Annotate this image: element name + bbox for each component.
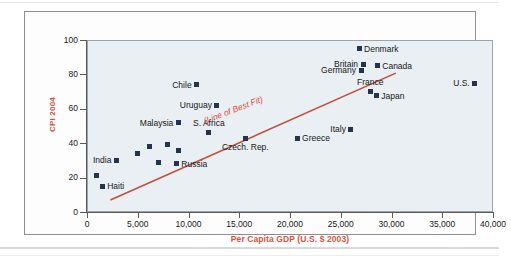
x-tick-label: 25,000 — [313, 219, 369, 229]
data-point — [472, 81, 477, 86]
x-tick-mark — [442, 212, 443, 218]
data-point — [176, 120, 181, 125]
x-tick-mark — [392, 212, 393, 218]
data-point — [243, 136, 248, 141]
data-point — [94, 173, 99, 178]
data-point — [214, 103, 219, 108]
x-tick-label: 15,000 — [211, 219, 267, 229]
x-axis-title: Per Capita GDP (U.S. $ 2003) — [87, 234, 493, 244]
x-tick-label: 5,000 — [110, 219, 166, 229]
data-point-label: India — [93, 156, 111, 165]
data-point — [135, 151, 140, 156]
x-tick-label: 10,000 — [161, 219, 217, 229]
data-point — [174, 161, 179, 166]
x-tick-label: 20,000 — [262, 219, 318, 229]
data-point — [206, 130, 211, 135]
y-axis-line — [86, 40, 87, 213]
data-point-label: Russia — [181, 159, 207, 168]
y-tick-mark — [80, 212, 87, 213]
x-tick-mark — [189, 212, 190, 218]
data-point-label: Germany — [321, 66, 356, 75]
y-tick-label: 100 — [44, 36, 78, 45]
data-point-label: Denmark — [364, 44, 398, 53]
data-point-label: Malaysia — [140, 118, 174, 127]
data-point-label: Chile — [172, 80, 191, 89]
y-tick-mark — [80, 109, 87, 110]
data-point — [375, 63, 380, 68]
data-point — [361, 62, 366, 67]
data-point — [359, 68, 364, 73]
y-tick-mark — [80, 40, 87, 41]
data-point — [147, 144, 152, 149]
x-tick-label: 0 — [59, 219, 115, 229]
x-tick-mark — [138, 212, 139, 218]
y-tick-mark — [80, 143, 87, 144]
data-point-label: Haiti — [107, 182, 124, 191]
data-point-label: Uruguay — [180, 101, 212, 110]
scan-artifact-bottom — [0, 247, 499, 249]
y-tick-mark — [80, 74, 87, 75]
data-point-label: Czech. Rep. — [222, 143, 269, 152]
data-point — [357, 46, 362, 51]
figure-frame: 020406080100 05,00010,00015,00020,00025,… — [24, 11, 476, 235]
data-point — [348, 127, 353, 132]
data-point — [165, 142, 170, 147]
data-point-label: S. Africa — [193, 119, 225, 128]
data-point — [156, 160, 161, 165]
scan-artifact-bottom-2 — [0, 255, 499, 256]
x-tick-mark — [87, 212, 88, 218]
y-tick-label: 20 — [44, 173, 78, 182]
y-tick-mark — [80, 178, 87, 179]
data-point — [194, 82, 199, 87]
data-point — [368, 89, 373, 94]
data-point-label: Japan — [381, 91, 404, 100]
data-point — [176, 148, 181, 153]
data-point-label: U.S. — [453, 79, 470, 88]
x-tick-label: 35,000 — [414, 219, 470, 229]
data-point — [114, 158, 119, 163]
y-tick-label: 0 — [44, 208, 78, 217]
data-point-label: Canada — [382, 61, 412, 70]
y-tick-label: 80 — [44, 70, 78, 79]
x-tick-label: 40,000 — [465, 219, 511, 229]
x-tick-mark — [493, 212, 494, 218]
data-point-label: Greece — [302, 134, 330, 143]
scan-artifact-top — [0, 2, 499, 3]
data-point-label: France — [357, 78, 383, 87]
x-tick-label: 30,000 — [364, 219, 420, 229]
data-point-label: Italy — [330, 125, 346, 134]
data-point — [295, 136, 300, 141]
x-tick-mark — [290, 212, 291, 218]
data-point — [374, 93, 379, 98]
x-tick-mark — [239, 212, 240, 218]
data-point — [100, 184, 105, 189]
x-tick-mark — [341, 212, 342, 218]
y-axis-title: CPI 2004 — [48, 80, 57, 150]
